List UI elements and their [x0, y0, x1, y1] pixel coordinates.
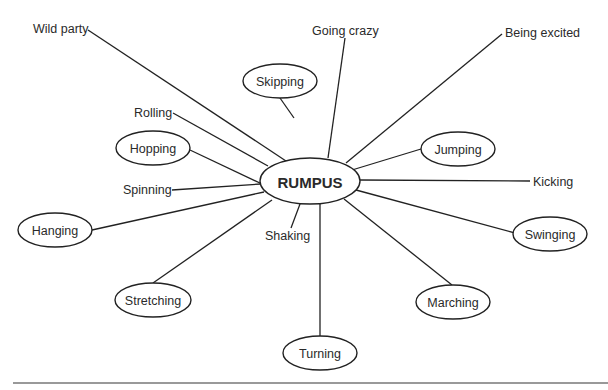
center-node: RUMPUS [260, 158, 360, 204]
edge-jumping [352, 149, 421, 170]
center-label: RUMPUS [277, 174, 342, 191]
label-kicking: Kicking [533, 175, 573, 189]
bubble-label: Hopping [130, 142, 177, 156]
bubble-label: Turning [299, 347, 341, 361]
edge-skipping [280, 98, 294, 118]
bubble-label: Skipping [256, 75, 304, 89]
label-spinning: Spinning [123, 183, 172, 197]
label-shaking: Shaking [265, 229, 310, 243]
bubble-hanging: Hanging [18, 213, 92, 247]
label-wild-party: Wild party [33, 22, 89, 36]
rumpus-word-web: SkippingHoppingHangingStretchingTurningM… [0, 0, 608, 390]
edge-hopping [190, 150, 262, 184]
edge-going-crazy [328, 38, 345, 158]
bubble-label: Jumping [434, 143, 481, 157]
label-being-excited: Being excited [505, 26, 580, 40]
label-going-crazy: Going crazy [312, 24, 379, 38]
bubble-stretching: Stretching [115, 283, 191, 317]
edge-shaking [291, 204, 300, 228]
label-rolling: Rolling [134, 106, 172, 120]
bubble-jumping: Jumping [421, 132, 495, 166]
bubble-turning: Turning [283, 336, 357, 370]
bubble-nodes: SkippingHoppingHangingStretchingTurningM… [18, 64, 587, 370]
bubble-swinging: Swinging [513, 217, 587, 251]
bubble-hopping: Hopping [116, 131, 190, 165]
bubble-label: Marching [427, 296, 478, 310]
bubble-label: Hanging [32, 224, 79, 238]
bubble-label: Stretching [125, 294, 181, 308]
bubble-marching: Marching [416, 285, 490, 319]
edge-kicking [360, 180, 530, 181]
free-labels: Wild partyGoing crazyBeing excitedRollin… [33, 22, 580, 243]
edge-spinning [172, 184, 261, 190]
bubble-skipping: Skipping [243, 64, 317, 98]
bubble-label: Swinging [525, 228, 576, 242]
edge-swinging [356, 190, 515, 233]
